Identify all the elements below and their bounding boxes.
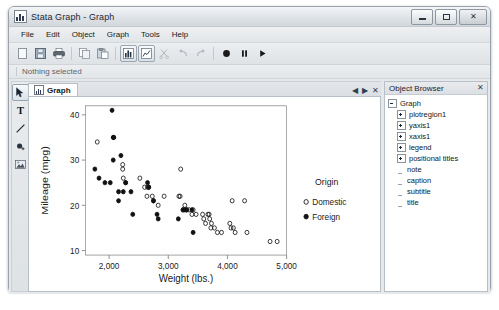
data-point-foreign (117, 190, 121, 194)
main-toolbar (9, 43, 490, 65)
tree-node-plotregion1[interactable]: plotregion1 (388, 109, 487, 120)
play-icon[interactable] (254, 45, 271, 62)
object-browser-header: Object Browser ✕ (385, 82, 487, 95)
data-point-foreign (155, 212, 159, 216)
chart-legend[interactable]: Origin Domestic Foreign (304, 177, 347, 223)
tab-navigation: ◀ ▶ ✕ (352, 87, 379, 95)
data-point-foreign (129, 190, 133, 194)
status-text: Nothing selected (22, 67, 82, 76)
grid-edit-icon[interactable] (138, 45, 155, 62)
menu-item-graph[interactable]: Graph (101, 29, 135, 40)
tree-node-Graph[interactable]: Graph (388, 98, 487, 109)
new-icon[interactable] (14, 45, 31, 62)
tree-node-label: plotregion1 (409, 110, 446, 119)
screenshot-root: Stata Graph - Graph ✕ File Edit Object G… (0, 0, 499, 310)
record-icon[interactable] (218, 45, 235, 62)
menu-item-object[interactable]: Object (66, 29, 101, 40)
cut-scissors-icon[interactable] (156, 45, 173, 62)
data-point-foreign (124, 181, 128, 185)
save-icon[interactable] (32, 45, 49, 62)
tree-node-caption[interactable]: caption (388, 175, 487, 186)
graph-canvas[interactable]: 2,0003,0004,0005,000 10203040 Weight (lb… (28, 97, 381, 292)
y-tick-label: 20 (70, 200, 79, 210)
tool-palette: T (11, 81, 28, 292)
status-separator (16, 67, 17, 76)
redo-icon[interactable] (192, 45, 209, 62)
stata-graph-window: Stata Graph - Graph ✕ File Edit Object G… (8, 6, 491, 291)
legend-marker-domestic (304, 200, 308, 205)
data-point-foreign (146, 181, 150, 185)
x-axis-label: Weight (lbs.) (159, 273, 214, 285)
toolbar-separator (71, 47, 72, 60)
tree-node-legend[interactable]: legend (388, 142, 487, 153)
data-point-foreign (152, 199, 156, 203)
menu-item-file[interactable]: File (15, 29, 40, 40)
tree-node-label: legend (409, 143, 432, 152)
data-point-foreign (176, 217, 180, 221)
data-point-foreign (147, 185, 151, 189)
image-tool-icon[interactable] (12, 156, 29, 173)
tree-node-note[interactable]: note (388, 164, 487, 175)
tree-node-yaxis1[interactable]: yaxis1 (388, 120, 487, 131)
maximize-button[interactable] (435, 9, 457, 25)
minimize-button[interactable] (411, 9, 433, 25)
tab-prev-icon[interactable]: ◀ (352, 87, 358, 95)
tree-expander-icon[interactable] (397, 110, 406, 119)
text-tool-icon[interactable]: T (12, 102, 29, 119)
svg-text:T: T (16, 105, 23, 116)
graph-editor-icon[interactable] (120, 45, 137, 62)
tree-expander-icon[interactable] (388, 99, 397, 108)
tab-graph[interactable]: Graph (28, 83, 78, 96)
tree-node-label: caption (407, 176, 431, 185)
data-point-foreign (117, 199, 121, 203)
data-point-foreign (156, 217, 160, 221)
document-tab-bar: Graph ◀ ▶ ✕ (28, 81, 381, 97)
menu-item-edit[interactable]: Edit (40, 29, 66, 40)
document-panel: Graph ◀ ▶ ✕ 2,0003,0004,0005,000 (28, 81, 381, 292)
tree-node-subtitle[interactable]: subtitle (388, 186, 487, 197)
window-title: Stata Graph - Graph (31, 12, 114, 22)
pointer-tool-icon[interactable] (12, 84, 29, 101)
tree-expander-icon[interactable] (397, 132, 406, 141)
menu-item-tools[interactable]: Tools (135, 29, 166, 40)
object-browser-title: Object Browser (389, 84, 444, 93)
marker-tool-icon[interactable] (12, 138, 29, 155)
object-browser-panel: Object Browser ✕ Graphplotregion1yaxis1x… (384, 81, 488, 292)
line-tool-icon[interactable] (12, 120, 29, 137)
tree-node-title[interactable]: title (388, 197, 487, 208)
x-tick-label: 4,000 (217, 260, 238, 270)
object-browser-tree[interactable]: Graphplotregion1yaxis1xaxis1legendpositi… (385, 95, 487, 291)
data-point-foreign (190, 208, 194, 212)
tree-node-positional-titles[interactable]: positional titles (388, 153, 487, 164)
tree-expander-icon[interactable] (397, 154, 406, 163)
graph-tab-icon (34, 85, 44, 95)
menu-item-help[interactable]: Help (166, 29, 194, 40)
tree-expander-icon[interactable] (397, 121, 406, 130)
tab-graph-label: Graph (47, 86, 71, 95)
copy-icon[interactable] (76, 45, 93, 62)
tab-close-icon[interactable]: ✕ (372, 87, 379, 95)
tree-expander-icon[interactable] (397, 143, 406, 152)
object-browser-close-icon[interactable]: ✕ (477, 84, 484, 92)
tree-node-xaxis1[interactable]: xaxis1 (388, 131, 487, 142)
x-tick-label: 2,000 (99, 260, 120, 270)
print-icon[interactable] (50, 45, 67, 62)
pause-icon[interactable] (236, 45, 253, 62)
legend-label-domestic: Domestic (312, 197, 347, 207)
x-tick-label: 5,000 (276, 260, 297, 270)
paste-icon[interactable] (94, 45, 111, 62)
window-controls: ✕ (411, 9, 487, 25)
y-tick-label: 30 (70, 155, 79, 165)
y-axis-ticks: 10203040 (70, 110, 85, 256)
scatter-plot[interactable]: 2,0003,0004,0005,000 10203040 Weight (lb… (31, 99, 378, 289)
data-point-foreign (119, 153, 123, 157)
undo-icon[interactable] (174, 45, 191, 62)
data-point-foreign (121, 190, 125, 194)
data-point-foreign (110, 108, 114, 112)
stata-graph-icon (14, 10, 27, 23)
tree-node-label: subtitle (407, 187, 431, 196)
legend-label-foreign: Foreign (312, 212, 340, 222)
tab-next-icon[interactable]: ▶ (362, 87, 368, 95)
close-button[interactable]: ✕ (459, 9, 487, 25)
y-axis-label: Mileage (mpg) (40, 146, 50, 215)
